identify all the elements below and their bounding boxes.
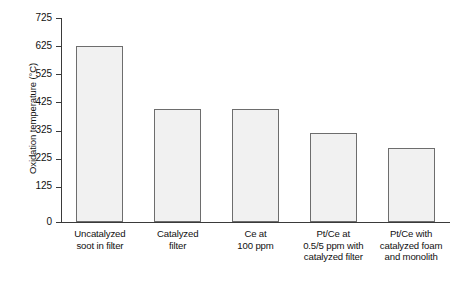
x-axis-line	[61, 222, 450, 223]
x-axis-label: Pt/Ce withcatalyzed foamand monolith	[372, 228, 450, 263]
y-tick-label: 125	[36, 180, 52, 191]
x-axis-label-line: Uncatalyzed	[61, 228, 139, 240]
y-tick-mark	[56, 74, 61, 75]
y-tick-mark	[56, 187, 61, 188]
bar-chart: Oxidation temperature (°C) 0125225325425…	[0, 0, 475, 286]
x-axis-label: Uncatalyzedsoot in filter	[61, 228, 139, 251]
x-axis-label-line: Pt/Ce at	[294, 228, 372, 240]
bar	[310, 133, 357, 222]
y-tick-label: 525	[36, 68, 52, 79]
y-tick-mark	[56, 102, 61, 103]
x-axis-label-line: 0.5/5 ppm with	[294, 240, 372, 252]
y-tick-mark	[56, 131, 61, 132]
x-axis-label-line: 100 ppm	[217, 240, 295, 252]
x-axis-label-line: soot in filter	[61, 240, 139, 252]
y-tick-label: 625	[36, 40, 52, 51]
plot-area: 0125225325425525625725	[61, 18, 450, 222]
y-tick-mark	[56, 18, 61, 19]
y-tick-mark	[56, 222, 61, 223]
x-axis-label-line: catalyzed foam	[372, 240, 450, 252]
x-axis-label-line: filter	[139, 240, 217, 252]
x-axis-label-line: Catalyzed	[139, 228, 217, 240]
bar	[232, 109, 279, 222]
x-axis-category-labels: Uncatalyzedsoot in filterCatalyzedfilter…	[61, 228, 450, 286]
y-tick-label: 725	[36, 12, 52, 23]
x-axis-label: Pt/Ce at0.5/5 ppm withcatalyzed filter	[294, 228, 372, 263]
bar	[76, 46, 123, 222]
y-tick-label: 0	[47, 216, 52, 227]
y-axis-line	[61, 18, 62, 222]
y-tick-label: 225	[36, 152, 52, 163]
x-axis-label-line: Pt/Ce with	[372, 228, 450, 240]
x-axis-label-line: Ce at	[217, 228, 295, 240]
y-tick-label: 325	[36, 124, 52, 135]
y-tick-mark	[56, 46, 61, 47]
x-axis-label-line: catalyzed filter	[294, 251, 372, 263]
bar	[154, 109, 201, 222]
x-axis-label: Catalyzedfilter	[139, 228, 217, 251]
y-tick-mark	[56, 159, 61, 160]
bar	[388, 148, 435, 222]
x-axis-label-line: and monolith	[372, 251, 450, 263]
y-tick-label: 425	[36, 96, 52, 107]
x-axis-label: Ce at100 ppm	[217, 228, 295, 251]
